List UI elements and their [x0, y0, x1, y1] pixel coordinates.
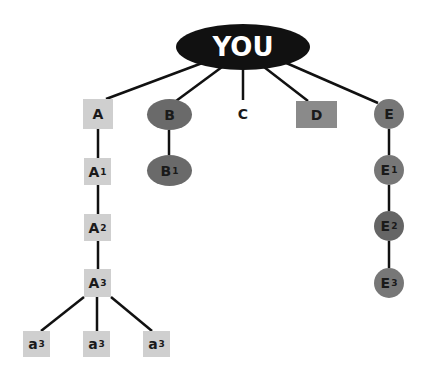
node-e2: E2: [374, 211, 404, 241]
root-label: YOU: [212, 32, 273, 62]
node-a: A: [83, 99, 113, 129]
node-b: B: [147, 99, 192, 130]
edge-you-b: [176, 67, 222, 101]
node-a1: A1: [84, 158, 111, 185]
edge-a3-a3left: [41, 297, 84, 331]
edge-a3-a3right: [111, 297, 152, 331]
node-d: D: [296, 101, 337, 128]
root-node-you: YOU: [176, 24, 310, 70]
node-a2: A2: [84, 214, 111, 241]
node-a3: A3: [84, 269, 111, 297]
node-b1: B1: [147, 155, 192, 186]
node-a3-mid: a3: [83, 331, 110, 357]
node-e1: E1: [374, 155, 404, 185]
edge-you-a: [106, 62, 205, 99]
node-c: C: [231, 100, 255, 128]
edge-you-e: [284, 62, 378, 103]
node-a3-left: a3: [23, 331, 50, 357]
node-e: E: [374, 99, 404, 129]
node-e3: E3: [374, 268, 404, 298]
node-a3-right: a3: [143, 331, 170, 357]
edge-you-d: [264, 67, 308, 101]
